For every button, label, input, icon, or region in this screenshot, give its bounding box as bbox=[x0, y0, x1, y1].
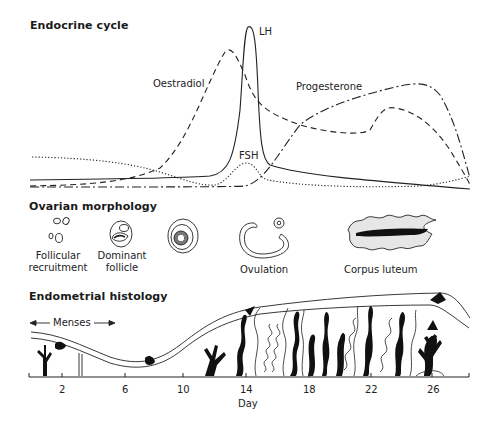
axis-label-day: Day bbox=[238, 398, 258, 409]
day-axis bbox=[29, 373, 469, 377]
axis-tick-26: 26 bbox=[427, 384, 440, 395]
coiled-glands bbox=[254, 306, 444, 376]
menses-glands bbox=[37, 342, 155, 376]
menses-label: Menses bbox=[53, 317, 91, 328]
endometrial-histology-drawing bbox=[0, 0, 494, 426]
axis-tick-22: 22 bbox=[365, 384, 378, 395]
endometrium-surface-outer bbox=[31, 293, 470, 362]
axis-tick-10: 10 bbox=[177, 384, 190, 395]
secretory-glands bbox=[204, 292, 446, 376]
axis-tick-2: 2 bbox=[59, 384, 65, 395]
axis-tick-6: 6 bbox=[122, 384, 128, 395]
axis-tick-14: 14 bbox=[240, 384, 253, 395]
axis-tick-18: 18 bbox=[303, 384, 316, 395]
